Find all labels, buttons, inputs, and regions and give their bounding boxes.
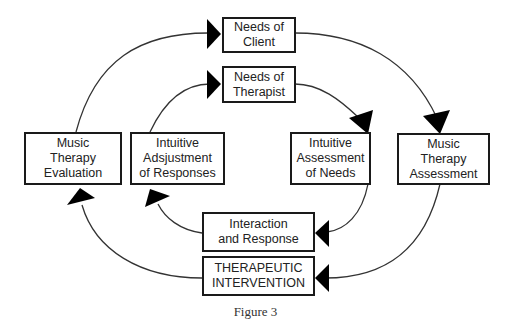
edge-therapist-to-assessment-needs [295, 84, 358, 117]
arrowhead-mt-assessment [423, 110, 450, 134]
edge-assessment-to-intervention [325, 184, 440, 278]
edge-evaluation-to-client [76, 33, 208, 132]
node-music-therapy-assessment: Music Therapy Assessment [397, 133, 490, 185]
arrowhead-mt-evaluation [67, 188, 95, 205]
arrowhead-intervention [315, 264, 329, 292]
node-music-therapy-evaluation: Music Therapy Evaluation [24, 132, 122, 185]
node-interaction-and-response: Interaction and Response [202, 212, 315, 252]
node-needs-of-therapist: Needs of Therapist [222, 66, 296, 103]
edge-adjustment-to-therapist [150, 84, 210, 132]
node-intuitive-assessment-of-needs: Intuitive Assessment of Needs [290, 132, 371, 185]
node-therapeutic-intervention: THERAPEUTIC INTERVENTION [202, 256, 315, 296]
edge-intervention-to-evaluation [82, 205, 202, 278]
node-needs-of-client: Needs of Client [222, 17, 296, 53]
edge-assessment-needs-to-interaction [327, 184, 368, 232]
node-intuitive-adjustment: Intuitive Adsjustment of Responses [130, 132, 225, 185]
arrowhead-assessment-needs [349, 110, 373, 134]
cycle-diagram: Needs of Client Needs of Therapist Music… [0, 0, 511, 325]
figure-caption: Figure 3 [0, 304, 511, 320]
arrowhead-interaction [315, 220, 329, 247]
edge-client-to-assessment [295, 33, 437, 118]
edge-interaction-to-adjustment [158, 204, 202, 233]
arrowhead-client [207, 19, 221, 49]
arrowhead-therapist [207, 70, 221, 99]
